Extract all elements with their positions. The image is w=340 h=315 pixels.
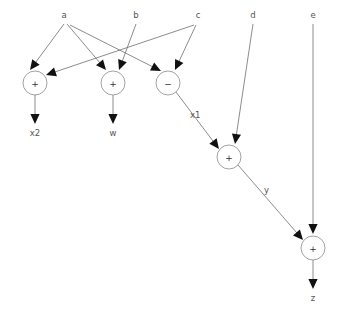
arrowhead-n2-w bbox=[108, 114, 117, 124]
arrowhead-a-n1 bbox=[30, 59, 40, 70]
dataflow-diagram: ++−++ abcdex2wzx1y bbox=[0, 0, 340, 315]
edge-c-n3 bbox=[179, 25, 196, 62]
input-label-a: a bbox=[61, 10, 66, 20]
edge-a-n2 bbox=[67, 24, 101, 64]
arrowhead-e-n5 bbox=[308, 224, 317, 234]
arrowhead-b-n2 bbox=[118, 59, 127, 70]
node-n1[interactable]: + bbox=[23, 71, 47, 95]
edge-d-n4 bbox=[236, 24, 253, 136]
edge-c-n1 bbox=[54, 25, 194, 72]
node-operator-n3: − bbox=[164, 79, 172, 89]
input-label-d: d bbox=[250, 10, 255, 20]
edge-a-n3 bbox=[70, 25, 153, 67]
output-label-w: w bbox=[110, 128, 117, 138]
edge-b-n2 bbox=[122, 24, 136, 62]
arrowhead-d-n4 bbox=[232, 133, 241, 144]
nodes-layer: ++−++ bbox=[23, 71, 325, 260]
arrowhead-c-n1 bbox=[46, 67, 57, 76]
arrowhead-n4-n5 bbox=[293, 229, 303, 240]
edge-n4-n5 bbox=[238, 165, 297, 234]
edge-a-n1 bbox=[35, 24, 64, 63]
input-label-e: e bbox=[310, 10, 315, 20]
output-label-x2: x2 bbox=[30, 128, 40, 138]
node-n3[interactable]: − bbox=[156, 71, 180, 95]
node-operator-n4: + bbox=[225, 153, 233, 163]
graph-canvas: ++−++ abcdex2wzx1y bbox=[0, 0, 340, 315]
node-n2[interactable]: + bbox=[101, 71, 125, 95]
edge-label-x1: x1 bbox=[190, 110, 200, 120]
output-label-z: z bbox=[311, 293, 316, 303]
input-label-c: c bbox=[196, 10, 201, 20]
edges-layer bbox=[35, 24, 313, 281]
arrowhead-a-n2 bbox=[96, 59, 106, 70]
arrowhead-n1-x2 bbox=[30, 114, 39, 124]
node-operator-n1: + bbox=[31, 79, 39, 89]
input-label-b: b bbox=[133, 10, 138, 20]
node-operator-n2: + bbox=[109, 79, 117, 89]
arrowhead-n3-n4 bbox=[209, 138, 219, 149]
edge-label-y: y bbox=[264, 185, 269, 195]
labels-layer: abcdex2wzx1y bbox=[30, 10, 316, 303]
node-n5[interactable]: + bbox=[301, 236, 325, 260]
node-operator-n5: + bbox=[309, 244, 317, 254]
arrowhead-n5-z bbox=[308, 279, 317, 289]
node-n4[interactable]: + bbox=[217, 145, 241, 169]
